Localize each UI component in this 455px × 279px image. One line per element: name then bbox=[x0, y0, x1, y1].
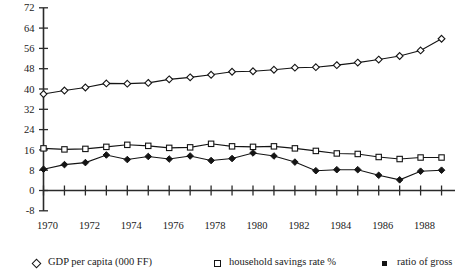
data-point bbox=[41, 146, 46, 151]
data-point bbox=[125, 142, 130, 147]
data-point bbox=[417, 47, 424, 54]
data-point bbox=[145, 153, 152, 160]
data-point bbox=[104, 144, 109, 149]
data-point bbox=[208, 71, 215, 78]
data-point bbox=[103, 152, 110, 159]
data-point bbox=[397, 156, 402, 161]
chart-series-group bbox=[40, 35, 445, 183]
data-point bbox=[82, 159, 89, 166]
y-tick-label: 64 bbox=[24, 23, 35, 34]
legend-item-gdp: GDP per capita (000 FF) bbox=[31, 256, 152, 268]
x-tick-label: 1982 bbox=[288, 220, 309, 231]
data-point bbox=[376, 154, 381, 159]
data-point bbox=[439, 155, 444, 160]
data-point bbox=[271, 144, 276, 149]
data-point bbox=[61, 161, 68, 168]
data-point bbox=[229, 144, 234, 149]
x-tick-label: 1976 bbox=[163, 220, 184, 231]
legend-item-savings: household savings rate % bbox=[212, 256, 336, 268]
y-axis-tick-labels: -8081624324048566472 bbox=[24, 2, 35, 216]
legend-label-savings: household savings rate % bbox=[229, 257, 336, 268]
data-point bbox=[396, 53, 403, 60]
x-tick-label: 1984 bbox=[330, 220, 352, 231]
x-tick-label: 1978 bbox=[205, 220, 226, 231]
data-point bbox=[124, 156, 131, 163]
legend-item-ratio: ratio of gross disposable income (t/t-1) bbox=[380, 256, 455, 268]
data-point bbox=[187, 145, 192, 150]
data-point bbox=[292, 146, 297, 151]
series-line bbox=[44, 39, 442, 94]
open-diamond-key-icon bbox=[31, 256, 43, 268]
solid-square-key-icon bbox=[380, 256, 392, 268]
data-point bbox=[62, 147, 67, 152]
data-point bbox=[313, 167, 320, 174]
chart-series-1 bbox=[41, 141, 444, 162]
data-point bbox=[355, 151, 360, 156]
data-point bbox=[208, 157, 215, 164]
data-point bbox=[271, 153, 278, 160]
data-point bbox=[146, 143, 151, 148]
data-point bbox=[313, 148, 318, 153]
x-tick-label: 1988 bbox=[414, 220, 435, 231]
data-point bbox=[354, 166, 361, 173]
data-point bbox=[208, 141, 213, 146]
data-point bbox=[40, 166, 47, 173]
chart-legend: GDP per capita (000 FF) household saving… bbox=[0, 248, 455, 276]
line-chart-plot: -8081624324048566472 1970197219741976197… bbox=[0, 0, 455, 245]
data-point bbox=[250, 68, 257, 75]
data-point bbox=[333, 62, 340, 69]
y-tick-label: 8 bbox=[29, 165, 34, 176]
data-point bbox=[250, 150, 257, 157]
data-point bbox=[82, 84, 89, 91]
x-axis: 1970197219741976197819801982198419861988 bbox=[37, 186, 455, 231]
data-point bbox=[375, 56, 382, 63]
x-axis-tick-labels: 1970197219741976197819801982198419861988 bbox=[37, 220, 435, 231]
data-point bbox=[271, 66, 278, 73]
data-point bbox=[250, 144, 255, 149]
legend-label-gdp: GDP per capita (000 FF) bbox=[48, 257, 152, 268]
data-point bbox=[124, 80, 131, 87]
data-point bbox=[438, 35, 445, 42]
chart-container: -8081624324048566472 1970197219741976197… bbox=[0, 0, 455, 279]
y-tick-label: 16 bbox=[24, 145, 35, 156]
data-point bbox=[187, 74, 194, 81]
y-axis: -8081624324048566472 bbox=[24, 2, 48, 216]
legend-ratio-prefix: ratio of gross disposable income ( bbox=[397, 256, 455, 267]
data-point bbox=[40, 91, 47, 98]
data-point bbox=[418, 155, 423, 160]
y-tick-label: 56 bbox=[24, 43, 35, 54]
data-point bbox=[312, 64, 319, 71]
data-point bbox=[166, 76, 173, 83]
data-point bbox=[61, 87, 68, 94]
data-point bbox=[292, 64, 299, 71]
chart-series-0 bbox=[40, 35, 445, 97]
data-point bbox=[166, 156, 173, 163]
x-tick-label: 1986 bbox=[372, 220, 393, 231]
y-tick-label: 48 bbox=[24, 63, 35, 74]
y-tick-label: 24 bbox=[24, 124, 35, 135]
data-point bbox=[103, 80, 110, 87]
data-point bbox=[396, 177, 403, 184]
y-tick-label: -8 bbox=[26, 205, 35, 216]
y-tick-label: 0 bbox=[29, 185, 34, 196]
data-point bbox=[334, 151, 339, 156]
data-point bbox=[292, 159, 299, 166]
data-point bbox=[145, 80, 152, 87]
chart-series-2 bbox=[40, 150, 445, 183]
x-tick-label: 1970 bbox=[37, 220, 58, 231]
y-tick-label: 32 bbox=[24, 104, 35, 115]
x-tick-label: 1974 bbox=[121, 220, 143, 231]
data-point bbox=[229, 68, 236, 75]
data-point bbox=[334, 166, 341, 173]
data-point bbox=[354, 59, 361, 66]
x-tick-label: 1972 bbox=[79, 220, 100, 231]
y-tick-label: 40 bbox=[24, 84, 35, 95]
data-point bbox=[417, 168, 424, 175]
x-tick-label: 1980 bbox=[247, 220, 268, 231]
data-point bbox=[375, 172, 382, 179]
data-point bbox=[229, 155, 236, 162]
data-point bbox=[167, 145, 172, 150]
open-square-key-icon bbox=[212, 256, 224, 268]
data-point bbox=[83, 146, 88, 151]
y-tick-label: 72 bbox=[24, 2, 35, 13]
